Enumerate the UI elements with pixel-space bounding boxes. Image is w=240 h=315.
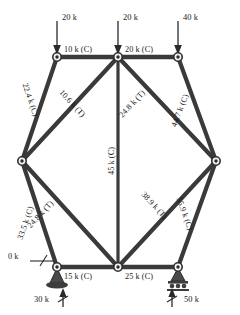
joint-bottom-left <box>53 263 61 271</box>
reaction-arrow-left <box>58 288 68 307</box>
truss-force-diagram: 20 k 20 k 40 k 10 k (C) 20 k (C) 22.4 k … <box>0 0 240 315</box>
joint-left <box>18 157 26 165</box>
member-label-top-right-chord: 20 k (C) <box>125 45 153 54</box>
joint-top-center <box>114 53 122 61</box>
truss-svg <box>0 0 240 315</box>
member-label-bottom-left-chord: 15 k (C) <box>64 272 92 281</box>
load-arrow-top-left <box>53 21 61 55</box>
member-label-top-left-chord: 10 k (C) <box>64 45 92 54</box>
zero-force-leader <box>30 255 55 266</box>
load-arrow-top-right <box>174 21 182 55</box>
joint-right <box>212 157 220 165</box>
load-label-top-center: 20 k <box>123 13 138 22</box>
load-label-top-left: 20 k <box>62 13 77 22</box>
member-label-bottom-right-chord: 25 k (C) <box>125 272 153 281</box>
joint-bottom-right <box>174 263 182 271</box>
member-upper-left-incline <box>22 57 57 161</box>
reaction-label-left: 30 k <box>34 295 49 304</box>
joint-top-right <box>174 53 182 61</box>
load-label-top-right: 40 k <box>183 13 198 22</box>
member-label-center-vertical: 45 k (C) <box>107 147 116 175</box>
load-arrow-top-center <box>114 21 122 55</box>
reaction-label-right: 50 k <box>184 295 199 304</box>
joint-top-left <box>53 53 61 61</box>
joint-bottom-center <box>114 263 122 271</box>
member-label-zero-force: 0 k <box>8 252 19 261</box>
